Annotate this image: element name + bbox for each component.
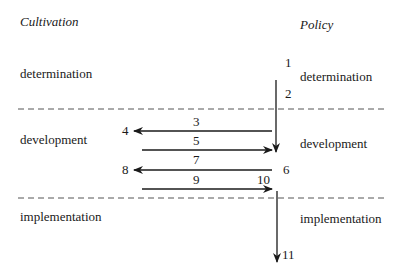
step-8: 8 — [122, 163, 129, 177]
step-10: 10 — [257, 173, 270, 187]
column-title-cultivation: Cultivation — [20, 15, 79, 29]
step-9: 9 — [193, 173, 200, 187]
step-1: 1 — [285, 56, 292, 70]
right-stage-implementation: implementation — [300, 212, 382, 226]
left-stage-implementation: implementation — [20, 210, 102, 224]
right-stage-determination: determination — [300, 70, 372, 84]
step-3: 3 — [193, 115, 200, 129]
step-2: 2 — [285, 87, 292, 101]
right-stage-development: development — [300, 137, 367, 151]
left-stage-development: development — [20, 133, 87, 147]
cultivation-policy-diagram: Cultivation Policy determination develop… — [0, 0, 405, 276]
step-11: 11 — [282, 248, 295, 262]
step-4: 4 — [122, 124, 129, 138]
left-stage-determination: determination — [20, 67, 92, 81]
step-5: 5 — [193, 134, 200, 148]
step-6: 6 — [283, 163, 290, 177]
column-title-policy: Policy — [300, 18, 333, 32]
step-7: 7 — [193, 153, 200, 167]
